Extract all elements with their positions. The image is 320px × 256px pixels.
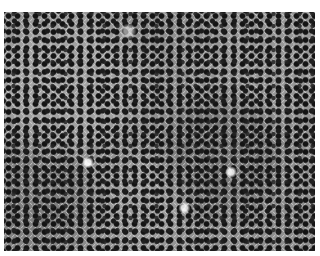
- bright-cells: [4, 12, 315, 251]
- micrograph-image: [4, 12, 315, 251]
